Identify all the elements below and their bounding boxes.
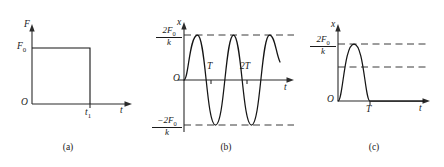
panel-c-ytick-peak-num-text: 2F bbox=[316, 34, 326, 44]
panel-a-origin-label: O bbox=[21, 98, 28, 108]
panel-a-plot bbox=[0, 0, 148, 167]
panel-b-y-axis-arrow bbox=[181, 22, 186, 30]
panel-b-ytick-negative-num-sub: 0 bbox=[173, 120, 176, 127]
panel-c-caption: (c) bbox=[354, 143, 394, 153]
panel-a-xtick-t1-sub: 1 bbox=[88, 112, 91, 119]
panel-c-y-axis-arrow bbox=[335, 24, 340, 32]
panel-a-x-axis-arrow bbox=[125, 101, 133, 106]
panel-c-x-axis-label: t bbox=[419, 104, 422, 114]
panel-a-force-vs-time: F F0 O t1 t (a) bbox=[0, 0, 148, 167]
panel-c-xtick-T: T bbox=[366, 105, 371, 115]
panel-b-ytick-positive-num-sub: 0 bbox=[172, 30, 175, 37]
panel-c-pulse-curve bbox=[338, 44, 424, 101]
panel-b-caption: (b) bbox=[206, 143, 246, 153]
panel-b-ytick-negative: −2F0 k bbox=[152, 116, 182, 138]
panel-a-y-axis-arrow bbox=[29, 24, 34, 32]
panel-c-ytick-peak-num-sub: 0 bbox=[326, 39, 329, 46]
panel-c-y-axis-label: x bbox=[331, 20, 335, 30]
panel-b-ytick-positive-num-text: 2F bbox=[162, 25, 172, 35]
panel-b-ytick-positive: 2F0 k bbox=[156, 26, 182, 48]
panel-a-y-axis-label: F bbox=[24, 20, 30, 30]
panel-b-x-axis-arrow bbox=[287, 77, 295, 82]
panel-c-origin-label: O bbox=[327, 95, 334, 105]
panel-b-x-axis-label: t bbox=[284, 83, 287, 93]
panel-b-displacement-oscillation: x 2F0 k −2F0 k O T 2T t (b) bbox=[148, 0, 304, 167]
panel-c-ytick-peak-num: 2F0 bbox=[310, 35, 336, 46]
panel-c-ytick-peak: 2F0 k bbox=[310, 35, 336, 57]
panel-a-ytick-F0: F0 bbox=[17, 42, 26, 54]
panel-a-xtick-t1: t1 bbox=[85, 108, 91, 120]
panel-a-x-axis-label: t bbox=[120, 106, 123, 116]
panel-a-ytick-F0-sub: 0 bbox=[23, 46, 26, 53]
panel-b-xtick-2T: 2T bbox=[240, 62, 250, 72]
physics-figure-panels: F F0 O t1 t (a) x 2F0 k bbox=[0, 0, 444, 167]
panel-c-ytick-peak-den: k bbox=[310, 46, 336, 56]
panel-b-ytick-positive-den: k bbox=[156, 37, 182, 47]
panel-c-displacement-pulse: x 2F0 k O T t (c) bbox=[304, 0, 444, 167]
panel-b-origin-label: O bbox=[173, 74, 180, 84]
panel-b-ytick-negative-den: k bbox=[152, 127, 182, 137]
panel-b-ytick-positive-num: 2F0 bbox=[156, 26, 182, 37]
panel-b-ytick-negative-num-text: −2F bbox=[157, 115, 173, 125]
panel-b-xtick-T: T bbox=[207, 62, 212, 72]
panel-a-pulse-curve bbox=[32, 48, 90, 104]
panel-a-caption: (a) bbox=[48, 143, 88, 153]
panel-b-ytick-negative-num: −2F0 bbox=[152, 116, 182, 127]
